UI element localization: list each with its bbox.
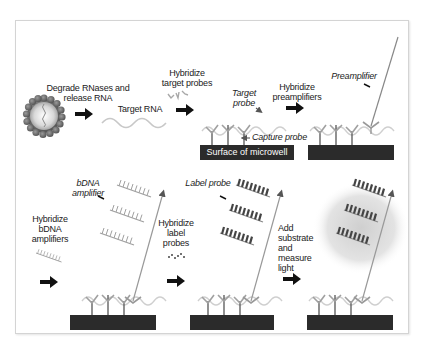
bdna-amplifier-callout: bDNA amplifier [70,178,106,198]
arrow-right-icon [286,102,304,114]
label-probe-icon [168,253,185,259]
label-line: probe [229,98,259,108]
label-line: label [154,228,198,238]
label-line: bDNA [70,178,106,188]
label-line: probes [154,238,198,248]
step-degrade-label: Degrade RNases and release RNA [46,83,130,103]
bdna-amplifier-icon [100,180,151,245]
microwell-icon [308,145,394,160]
label-line: Target [229,88,259,98]
label-line: bDNA [25,224,75,234]
label-line: Hybridize [25,214,75,224]
label-line: release RNA [46,93,130,103]
target-rna-label: Target RNA [110,104,170,114]
step-hybridize-preamplifiers-label: Hybridize preamplifiers [268,82,326,102]
target-probe-callout: Target probe [229,88,259,108]
preamplifier-icon [363,37,398,134]
microwell-surface: Surface of microwell [200,145,294,160]
label-probe-callout: Label probe [184,178,232,188]
label-line: Add [278,223,324,233]
label-line: Degrade RNases and [46,83,130,93]
rna-strand-icon [102,119,166,128]
light-glow-icon [313,182,409,274]
diagram-artwork [0,0,423,343]
arrow-right-icon [167,275,185,287]
label-line: Hybridize [268,82,326,92]
step-hybridize-bdna-label: Hybridize bDNA amplifiers [25,214,75,244]
arrow-right-icon [40,276,58,288]
label-line: light [278,263,324,273]
preamplifier-callout: Preamplifier [330,71,378,81]
label-line: substrate [278,233,324,243]
step-hybridize-target-probes-label: Hybridize target probes [158,68,216,88]
label-line: and measure [278,243,324,263]
label-line: amplifiers [25,234,75,244]
microwell-icon [70,315,156,330]
step-hybridize-label-probes-label: Hybridize label probes [154,218,198,248]
label-line: target probes [158,78,216,88]
step-add-substrate-label: Add substrate and measure light [278,223,324,273]
microwell-icon [307,315,393,330]
label-line: Hybridize [158,68,216,78]
label-line: amplifier [70,188,106,198]
arrow-right-icon [176,104,194,116]
label-line: Hybridize [154,218,198,228]
microwell-icon [190,315,274,330]
label-line: preamplifiers [268,92,326,102]
capture-probe-callout: Capture probe [252,132,312,142]
arrow-right-icon [75,108,93,120]
arrow-right-icon [283,273,301,285]
probe-icon [168,91,188,98]
